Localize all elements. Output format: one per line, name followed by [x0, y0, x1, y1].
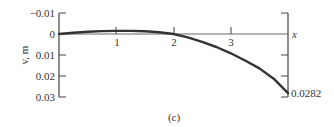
figure-caption: (c) [168, 111, 181, 124]
svg-text:−0.01: −0.01 [30, 7, 55, 19]
svg-text:1: 1 [114, 36, 120, 48]
svg-text:2: 2 [171, 36, 177, 48]
x-axis-label: x [291, 28, 297, 40]
svg-text:0: 0 [50, 28, 56, 40]
svg-text:3: 3 [228, 36, 234, 48]
right-ticks [281, 13, 288, 97]
svg-text:0.02: 0.02 [36, 70, 55, 82]
y-tick-labels: −0.01 0 0.01 0.02 0.03 [30, 7, 56, 103]
svg-text:0.03: 0.03 [36, 91, 56, 103]
end-value-annotation: 0.0282 [291, 87, 321, 99]
deflection-chart: −0.01 0 0.01 0.02 0.03 1 2 3 x v, m 0.02… [0, 0, 334, 127]
left-ticks [59, 13, 66, 97]
svg-text:0.01: 0.01 [36, 49, 55, 61]
y-axis-label: v, m [18, 45, 30, 64]
